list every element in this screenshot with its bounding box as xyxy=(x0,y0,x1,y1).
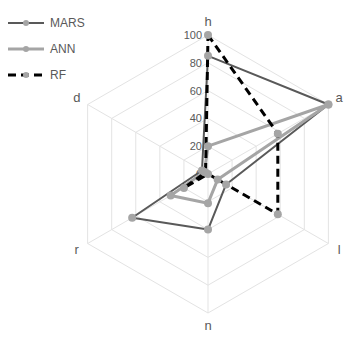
tick-label: 80 xyxy=(190,57,202,69)
data-series xyxy=(128,31,332,234)
tick-label: 40 xyxy=(190,112,202,124)
axis-label-d: d xyxy=(73,90,80,105)
axis-label-h: h xyxy=(204,14,211,29)
data-point-marker xyxy=(274,130,282,138)
data-point-marker xyxy=(214,176,222,184)
legend: MARS ANN RF xyxy=(6,10,85,88)
legend-label: RF xyxy=(50,68,66,82)
axis-label-l: l xyxy=(338,242,341,257)
data-point-marker xyxy=(204,52,212,60)
radial-tick-labels: 020406080100 xyxy=(184,29,202,180)
data-point-marker xyxy=(204,142,212,150)
data-point-marker xyxy=(204,199,212,207)
tick-label: 100 xyxy=(184,29,202,41)
legend-label: MARS xyxy=(50,16,85,30)
legend-item-mars: MARS xyxy=(6,10,85,36)
data-point-marker xyxy=(204,226,212,234)
data-point-marker xyxy=(167,192,175,200)
data-point-marker xyxy=(222,180,230,188)
data-point-marker xyxy=(128,214,136,222)
legend-mars-line-icon xyxy=(6,18,46,28)
data-point-marker xyxy=(180,184,188,192)
data-point-marker xyxy=(202,169,210,177)
data-point-marker xyxy=(324,101,332,109)
axis-label-a: a xyxy=(336,90,344,105)
axis-label-r: r xyxy=(75,242,80,257)
legend-item-ann: ANN xyxy=(6,36,85,62)
legend-rf-line-icon xyxy=(6,70,46,80)
legend-label: ANN xyxy=(50,42,75,56)
tick-label: 60 xyxy=(190,85,202,97)
axis-label-n: n xyxy=(204,318,211,333)
data-point-marker xyxy=(204,31,212,39)
data-point-marker xyxy=(274,210,282,218)
legend-ann-line-icon xyxy=(6,44,46,54)
series-mars xyxy=(132,56,328,230)
legend-item-rf: RF xyxy=(6,62,85,88)
tick-label: 20 xyxy=(190,140,202,152)
